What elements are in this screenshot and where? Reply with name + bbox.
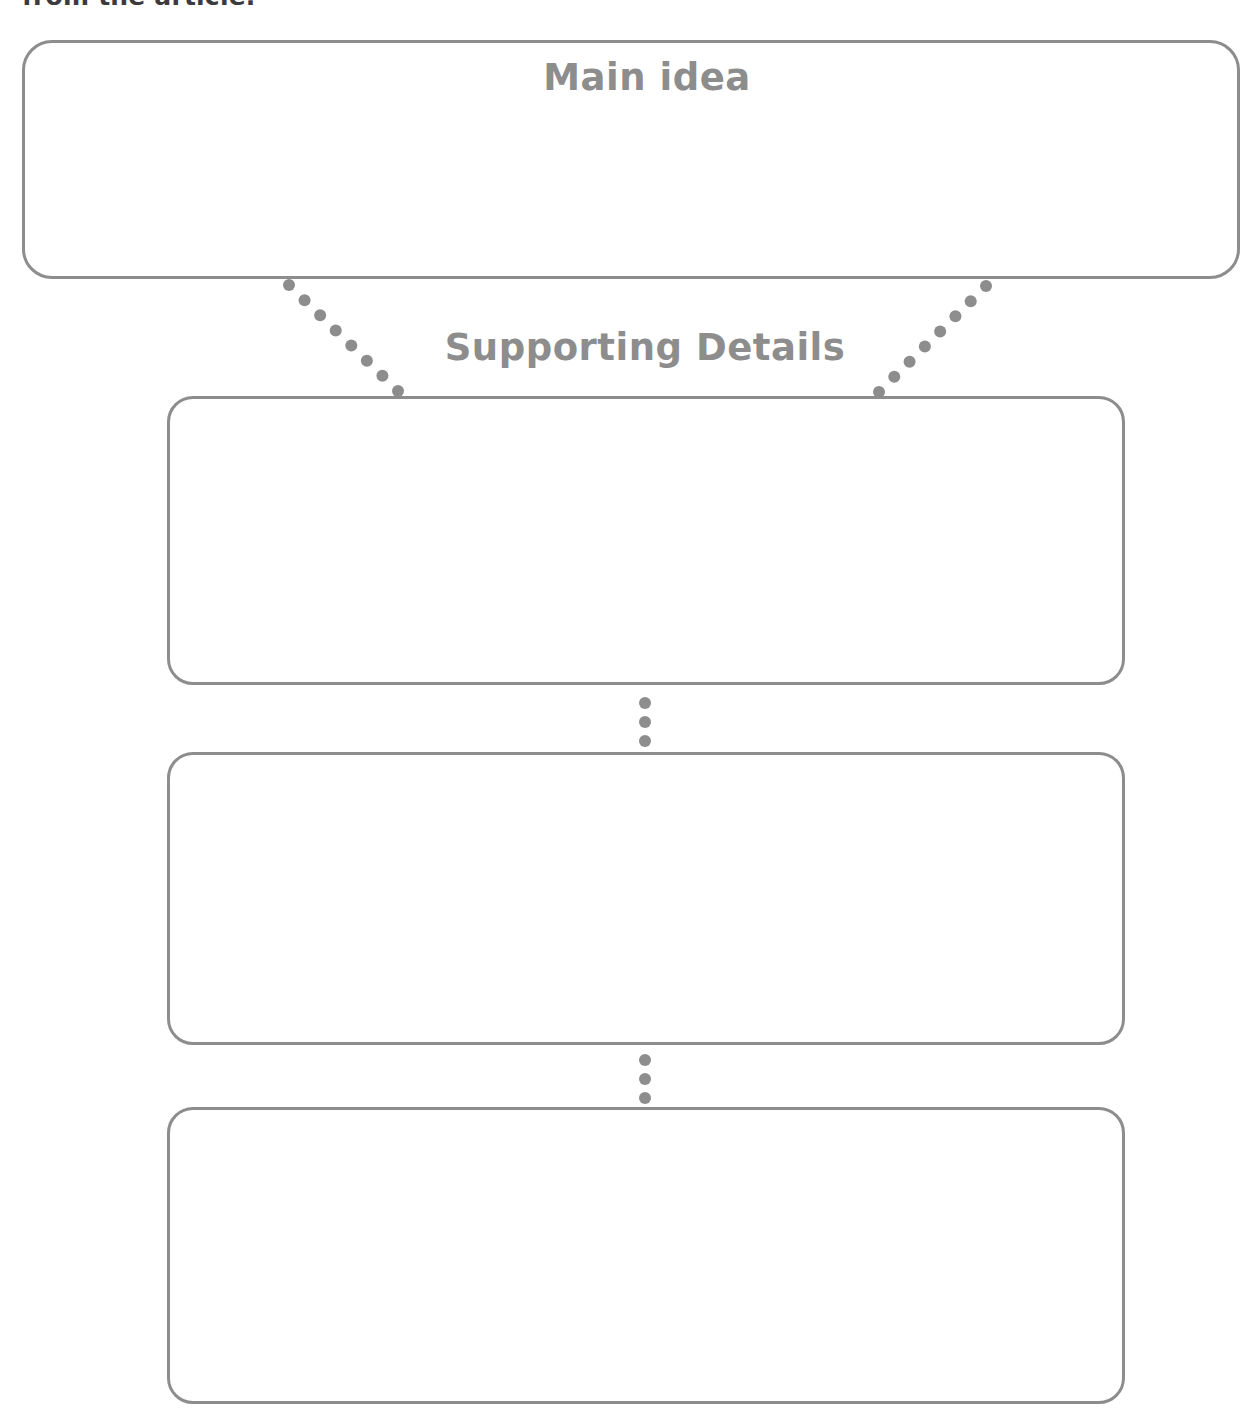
connector-dot-branch-left — [314, 309, 326, 321]
connector-dot-branch-right — [949, 310, 961, 322]
main-idea-label: Main idea — [0, 56, 1244, 100]
connector-dot-branch-right — [980, 280, 992, 292]
supporting-detail-box-3[interactable] — [167, 1107, 1125, 1404]
instruction-text: from the article. — [22, 0, 922, 12]
connector-dot-branch-right — [965, 295, 977, 307]
connector-dot-chain-2-3 — [639, 1092, 651, 1104]
connector-dot-chain-1-2 — [639, 716, 651, 728]
connector-dot-chain-2-3 — [639, 1054, 651, 1066]
connector-dot-chain-2-3 — [639, 1073, 651, 1085]
connector-dot-branch-left — [283, 279, 295, 291]
supporting-detail-box-1[interactable] — [167, 396, 1125, 685]
connector-dot-chain-1-2 — [639, 735, 651, 747]
connector-dot-chain-1-2 — [639, 697, 651, 709]
connector-dot-branch-left — [376, 370, 388, 382]
supporting-details-label: Supporting Details — [0, 326, 1244, 370]
supporting-detail-box-2[interactable] — [167, 752, 1125, 1045]
connector-dot-branch-right — [888, 371, 900, 383]
connector-dot-branch-left — [299, 294, 311, 306]
